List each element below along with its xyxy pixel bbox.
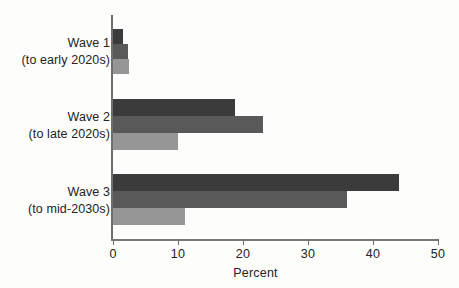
category-label-3: Wave 3(to mid-2030s) [28, 184, 110, 217]
category-label-1: Wave 1(to early 2020s) [22, 35, 110, 68]
bar-chart-figure: Wave 1(to early 2020s)Wave 2(to late 202… [0, 0, 459, 288]
x-axis-title-label: Percent [233, 266, 277, 280]
bar [113, 116, 263, 133]
plot-area [113, 15, 438, 240]
category-label-main: Wave 1 [22, 35, 110, 52]
category-label-sub: (to early 2020s) [22, 52, 110, 69]
bar [113, 29, 123, 44]
category-label-2: Wave 2(to late 2020s) [29, 109, 110, 142]
x-axis-title: Percent [0, 266, 459, 280]
x-tick-mark [243, 239, 244, 245]
category-label-main: Wave 2 [29, 109, 110, 126]
bar [113, 208, 185, 225]
x-tick-mark [178, 239, 179, 245]
x-tick-mark [373, 239, 374, 245]
bar [113, 99, 235, 116]
x-tick-label: 30 [301, 247, 315, 261]
bar [113, 133, 178, 150]
bar [113, 191, 347, 208]
category-label-main: Wave 3 [28, 184, 110, 201]
bar [113, 59, 129, 74]
x-tick-label: 0 [109, 247, 116, 261]
x-tick-label: 40 [366, 247, 380, 261]
bar [113, 44, 128, 59]
x-tick-label: 50 [431, 247, 445, 261]
x-tick-mark [308, 239, 309, 245]
category-label-sub: (to mid-2030s) [28, 201, 110, 218]
category-label-sub: (to late 2020s) [29, 126, 110, 143]
bar [113, 174, 399, 191]
x-tick-mark [438, 239, 439, 245]
x-tick-label: 20 [236, 247, 250, 261]
x-tick-mark [113, 239, 114, 245]
x-tick-label: 10 [171, 247, 185, 261]
